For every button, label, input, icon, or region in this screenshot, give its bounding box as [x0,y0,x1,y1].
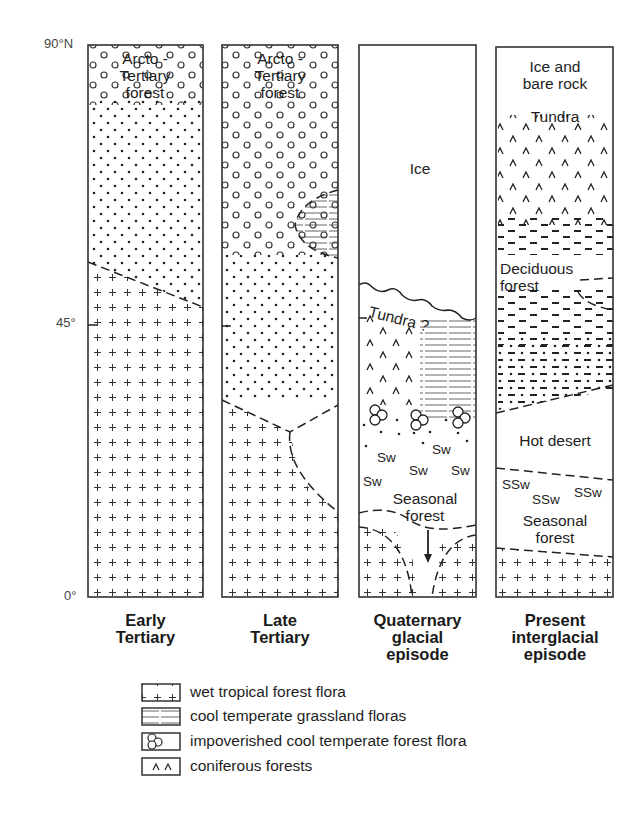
column-title-present-interglacial: Present interglacial episode [490,612,620,663]
ssw-marker: SSw [532,492,560,507]
axis-label-0: 0° [64,588,76,603]
column-title-late-tertiary: Late Tertiary [222,612,338,646]
axis-label-45: 45° [56,315,76,330]
legend-label: impoverished cool temperate forest flora [190,732,467,750]
legend-label: cool temperate grassland floras [190,707,406,725]
column-late-tertiary [222,45,338,597]
sw-marker: Sw [377,450,396,465]
zone-label-arcto-tertiary-early: Arcto - Tertiary forest [100,50,190,101]
sw-marker: Sw [409,463,428,478]
column-early-tertiary [88,45,203,597]
zone-label-seasonal-forest-glacial: Seasonal forest [380,490,470,524]
legend-item-coniferous: coniferous forests [142,758,562,780]
zone-label-deciduous-forest: Deciduous forest [500,260,600,294]
sw-marker: Sw [451,463,470,478]
legend-item-impoverished-forest: impoverished cool temperate forest flora [142,733,562,755]
column-title-quaternary-glacial: Quaternary glacial episode [350,612,485,663]
zone-label-ice: Ice [395,160,445,177]
zone-label-arcto-tertiary-late: Arcto - Tertiary forest [235,50,325,101]
legend-item-grassland: cool temperate grassland floras [142,708,562,730]
legend-label: coniferous forests [190,757,312,775]
legend-item-wet-tropical: wet tropical forest flora [142,684,562,706]
ssw-marker: SSw [574,485,602,500]
zone-label-hot-desert: Hot desert [500,432,610,449]
legend-label: wet tropical forest flora [190,683,346,701]
axis-label-90n: 90°N [44,36,73,51]
zone-label-seasonal-forest-present: Seasonal forest [510,512,600,546]
sw-marker: Sw [363,474,382,489]
ssw-marker: SSw [502,477,530,492]
zone-label-tundra-present: Tundra [515,108,595,125]
column-title-early-tertiary: Early Tertiary [88,612,203,646]
zone-label-ice-bare-rock: Ice and bare rock [500,58,610,92]
sw-marker: Sw [432,442,451,457]
